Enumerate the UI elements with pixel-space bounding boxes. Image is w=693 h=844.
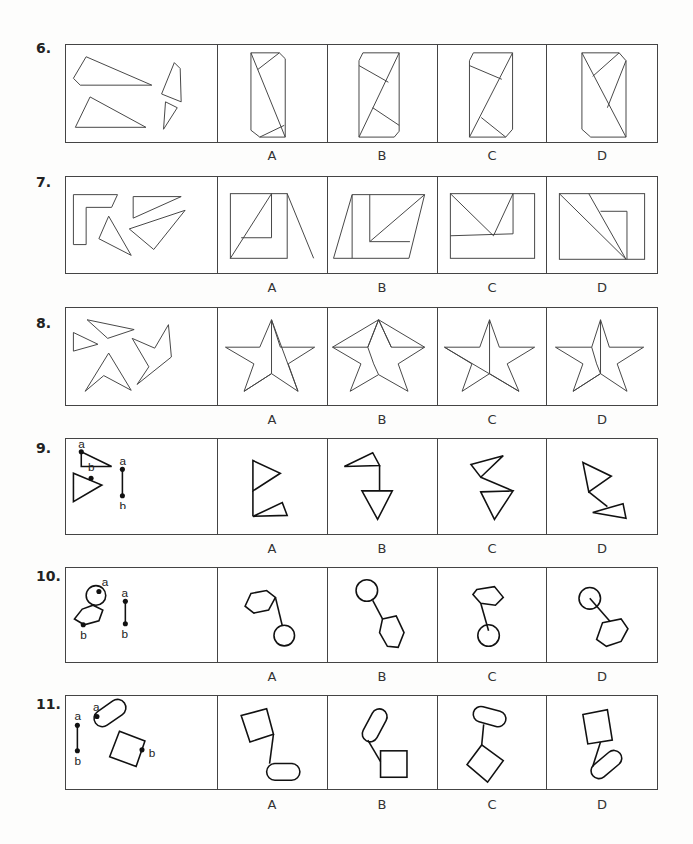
option-label-b: B (372, 669, 392, 684)
option-label-a: A (262, 412, 282, 427)
question-7-row (65, 176, 658, 274)
option-10-a[interactable] (217, 568, 327, 662)
option-label-c: C (482, 412, 502, 427)
option-11-a[interactable] (217, 696, 327, 789)
option-label-b: B (372, 797, 392, 812)
label-b: b (119, 499, 126, 512)
option-label-b: B (372, 412, 392, 427)
option-label-a: A (262, 669, 282, 684)
label-b: b (149, 746, 156, 759)
option-6-b[interactable] (327, 45, 437, 142)
option-11-c[interactable] (437, 696, 546, 789)
option-6-d[interactable] (546, 45, 657, 142)
question-number: 8. (36, 315, 51, 331)
question-number: 11. (36, 696, 61, 712)
option-8-c[interactable] (437, 308, 546, 405)
option-8-b[interactable] (327, 308, 437, 405)
option-10-b[interactable] (327, 568, 437, 662)
option-label-b: B (372, 280, 392, 295)
option-label-c: C (482, 669, 502, 684)
question-number: 10. (36, 568, 61, 584)
question-7-pieces (66, 177, 217, 273)
label-b: b (74, 754, 81, 767)
question-6-pieces (66, 45, 217, 142)
option-7-c[interactable] (437, 177, 546, 273)
option-7-a[interactable] (217, 177, 327, 273)
label-a: a (78, 439, 85, 450)
option-11-d[interactable] (546, 696, 657, 789)
question-11-row: a a b b (65, 695, 658, 790)
option-10-d[interactable] (546, 568, 657, 662)
label-a: a (121, 586, 128, 599)
option-8-d[interactable] (546, 308, 657, 405)
question-8-pieces (66, 308, 217, 405)
option-9-c[interactable] (437, 439, 546, 534)
question-10-pieces: a a b b (66, 568, 217, 662)
option-11-b[interactable] (327, 696, 437, 789)
option-6-a[interactable] (217, 45, 327, 142)
option-7-b[interactable] (327, 177, 437, 273)
option-10-c[interactable] (437, 568, 546, 662)
option-6-c[interactable] (437, 45, 546, 142)
option-label-c: C (482, 280, 502, 295)
label-a: a (102, 575, 109, 588)
option-label-a: A (262, 148, 282, 163)
question-10-row: a a b b (65, 567, 658, 663)
label-b: b (80, 628, 87, 641)
option-9-d[interactable] (546, 439, 657, 534)
question-8-row (65, 307, 658, 406)
label-a: a (74, 709, 81, 722)
option-8-a[interactable] (217, 308, 327, 405)
option-label-d: D (592, 280, 612, 295)
option-label-a: A (262, 541, 282, 556)
option-label-a: A (262, 797, 282, 812)
question-number: 6. (36, 40, 51, 56)
option-label-a: A (262, 280, 282, 295)
option-9-b[interactable] (327, 439, 437, 534)
option-label-c: C (482, 541, 502, 556)
option-label-d: D (592, 541, 612, 556)
label-a: a (93, 700, 100, 713)
option-9-a[interactable] (217, 439, 327, 534)
option-label-d: D (592, 412, 612, 427)
option-label-d: D (592, 669, 612, 684)
question-6-row (65, 44, 658, 143)
option-label-c: C (482, 797, 502, 812)
label-b: b (121, 627, 128, 640)
question-11-pieces: a a b b (66, 696, 217, 789)
label-b: b (88, 460, 95, 473)
option-label-b: B (372, 148, 392, 163)
option-label-c: C (482, 148, 502, 163)
label-a: a (119, 454, 126, 467)
question-number: 7. (36, 174, 51, 190)
option-label-d: D (592, 148, 612, 163)
option-7-d[interactable] (546, 177, 657, 273)
option-label-b: B (372, 541, 392, 556)
option-label-d: D (592, 797, 612, 812)
question-number: 9. (36, 440, 51, 456)
question-9-row: a b a b (65, 438, 658, 535)
question-9-pieces: a b a b (66, 439, 217, 534)
